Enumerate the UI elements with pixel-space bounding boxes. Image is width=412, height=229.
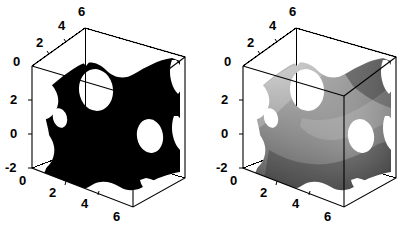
left-top-tick-4: 4 <box>58 19 65 32</box>
right-bottom-tick-2: 2 <box>260 186 267 199</box>
left-plot-svg <box>0 0 206 229</box>
left-bottom-tick-6: 6 <box>113 210 120 223</box>
left-top-tick-6: 6 <box>78 5 85 18</box>
right-bottom-tick-6: 6 <box>324 210 331 223</box>
left-z-tick-2: 2 <box>10 93 17 106</box>
right-plot-svg <box>206 0 412 229</box>
right-z-tick-0: 0 <box>221 127 228 140</box>
left-top-tick-0: 0 <box>13 55 20 68</box>
left-bottom-tick-0: 0 <box>19 174 26 187</box>
figure-container: 0 2 4 6 2 0 -2 0 2 4 6 <box>0 0 412 229</box>
right-top-tick-0: 0 <box>224 55 231 68</box>
right-z-tick-m2: -2 <box>216 161 228 174</box>
left-z-tick-m2: -2 <box>5 161 17 174</box>
right-top-tick-2: 2 <box>247 36 254 49</box>
right-bottom-tick-4: 4 <box>292 197 299 210</box>
panel-right-shaded-plot: 0 2 4 6 2 0 -2 0 2 4 6 <box>206 0 412 229</box>
left-surface <box>0 0 206 229</box>
left-z-tick-0: 0 <box>10 127 17 140</box>
left-bottom-tick-2: 2 <box>49 186 56 199</box>
right-bottom-tick-0: 0 <box>230 174 237 187</box>
right-z-tick-2: 2 <box>221 93 228 106</box>
right-top-tick-6: 6 <box>289 5 296 18</box>
right-top-tick-4: 4 <box>269 19 276 32</box>
panel-left-silhouette-plot: 0 2 4 6 2 0 -2 0 2 4 6 <box>0 0 206 229</box>
left-bottom-tick-4: 4 <box>81 197 88 210</box>
left-top-tick-2: 2 <box>36 36 43 49</box>
